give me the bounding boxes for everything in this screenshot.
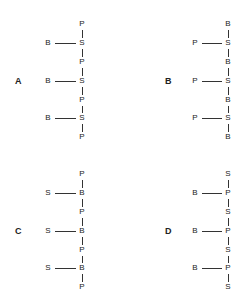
backbone-node: S — [78, 77, 86, 85]
backbone-bond — [82, 180, 83, 188]
backbone-node: B — [224, 133, 232, 141]
backbone-bond — [228, 30, 229, 38]
backbone-bond — [228, 180, 229, 188]
backbone-node: P — [78, 170, 86, 178]
backbone-node: S — [224, 246, 232, 254]
backbone-bond — [82, 237, 83, 245]
backbone-node: P — [78, 133, 86, 141]
backbone-bond — [228, 199, 229, 207]
backbone-bond — [228, 124, 229, 132]
side-node: B — [191, 227, 199, 235]
backbone-node: B — [78, 227, 86, 235]
panel-label: A — [15, 76, 22, 86]
side-bond — [55, 43, 76, 44]
backbone-node: B — [78, 189, 86, 197]
backbone-node: S — [224, 39, 232, 47]
backbone-node: P — [78, 58, 86, 66]
backbone-bond — [82, 199, 83, 207]
backbone-node: P — [78, 246, 86, 254]
side-bond — [55, 231, 76, 232]
backbone-bond — [82, 106, 83, 113]
side-node: B — [44, 39, 52, 47]
side-node: B — [191, 189, 199, 197]
side-bond — [202, 118, 222, 119]
side-bond — [202, 43, 222, 44]
backbone-node: S — [78, 114, 86, 122]
side-node: S — [44, 227, 52, 235]
backbone-node: B — [224, 96, 232, 104]
side-bond — [55, 81, 76, 82]
backbone-bond — [82, 87, 83, 95]
backbone-node: P — [78, 283, 86, 291]
side-node: P — [191, 114, 199, 122]
panel-label: B — [165, 76, 172, 86]
backbone-node: B — [78, 264, 86, 272]
backbone-node: P — [224, 189, 232, 197]
backbone-node: B — [224, 58, 232, 66]
backbone-node: S — [224, 114, 232, 122]
backbone-bond — [228, 87, 229, 95]
backbone-bond — [228, 68, 229, 76]
side-node: B — [44, 114, 52, 122]
side-bond — [202, 193, 222, 194]
backbone-node: P — [224, 227, 232, 235]
backbone-bond — [82, 218, 83, 226]
backbone-bond — [228, 49, 229, 57]
backbone-node: P — [78, 208, 86, 216]
side-bond — [202, 268, 222, 269]
backbone-bond — [228, 274, 229, 282]
side-bond — [202, 81, 222, 82]
backbone-bond — [228, 106, 229, 113]
backbone-bond — [228, 218, 229, 226]
backbone-node: B — [224, 20, 232, 28]
panel-label: C — [15, 226, 22, 236]
side-node: B — [44, 77, 52, 85]
backbone-node: P — [78, 20, 86, 28]
backbone-node: S — [78, 39, 86, 47]
backbone-node: P — [78, 96, 86, 104]
panel-label: D — [165, 226, 172, 236]
side-node: P — [191, 77, 199, 85]
backbone-bond — [82, 68, 83, 76]
backbone-bond — [82, 256, 83, 263]
side-bond — [55, 118, 76, 119]
side-node: S — [44, 189, 52, 197]
backbone-node: P — [224, 264, 232, 272]
backbone-node: S — [224, 208, 232, 216]
side-bond — [55, 268, 76, 269]
backbone-bond — [82, 49, 83, 57]
backbone-bond — [82, 30, 83, 38]
backbone-node: S — [224, 283, 232, 291]
backbone-bond — [228, 256, 229, 263]
backbone-bond — [82, 274, 83, 282]
side-bond — [202, 231, 222, 232]
backbone-bond — [228, 237, 229, 245]
backbone-node: S — [224, 77, 232, 85]
side-node: B — [191, 264, 199, 272]
side-node: S — [44, 264, 52, 272]
backbone-node: S — [224, 170, 232, 178]
side-node: P — [191, 39, 199, 47]
side-bond — [55, 193, 76, 194]
backbone-bond — [82, 124, 83, 132]
